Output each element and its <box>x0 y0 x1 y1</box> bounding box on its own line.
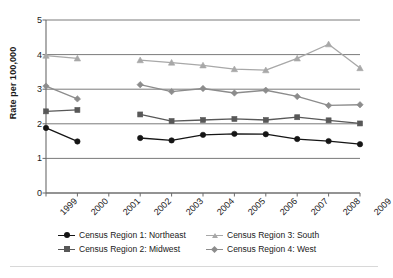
legend-marker-diamond-icon <box>206 245 223 254</box>
data-point-circle <box>326 138 331 143</box>
data-point-diamond <box>263 87 269 93</box>
x-tick-label: 2004 <box>215 196 236 217</box>
data-point-triangle <box>325 41 331 47</box>
data-point-triangle <box>294 55 300 61</box>
data-point-circle <box>169 138 174 143</box>
legend-entry-west[interactable]: Census Region 4: West <box>206 245 358 254</box>
series-northeast <box>43 125 362 147</box>
data-point-circle <box>75 139 80 144</box>
data-point-circle <box>232 131 237 136</box>
series-line <box>46 128 77 141</box>
legend-entry-south[interactable]: Census Region 3: South <box>206 231 358 240</box>
data-point-circle <box>138 135 143 140</box>
x-tick-label: 2002 <box>152 196 173 217</box>
series-line <box>46 56 77 59</box>
series-line <box>46 86 77 99</box>
data-point-diamond <box>43 83 49 89</box>
x-tick-label: 2007 <box>309 196 330 217</box>
series-south <box>43 41 363 73</box>
data-point-circle <box>200 132 205 137</box>
data-point-square <box>263 117 268 122</box>
axis-lines <box>43 20 361 193</box>
series-line <box>140 85 360 106</box>
series-line <box>46 110 77 111</box>
data-point-diamond <box>294 93 300 99</box>
footer-divider <box>10 266 378 267</box>
data-point-diamond <box>357 102 363 108</box>
legend-label: Census Region 1: Northeast <box>79 231 186 240</box>
x-tick-label: 2003 <box>183 196 204 217</box>
data-point-diamond <box>137 82 143 88</box>
x-tick-label: 2000 <box>89 196 110 217</box>
data-point-circle <box>357 142 362 147</box>
data-point-square <box>169 119 174 124</box>
data-point-circle <box>263 131 268 136</box>
data-point-diamond <box>231 90 237 96</box>
data-point-square <box>326 118 331 123</box>
data-point-circle <box>295 136 300 141</box>
data-point-square <box>138 112 143 117</box>
legend-entry-midwest[interactable]: Census Region 2: Midwest <box>58 245 206 254</box>
legend-entry-northeast[interactable]: Census Region 1: Northeast <box>58 231 206 240</box>
x-axis-tick-labels: 1999200020012002200320042005200620072008… <box>46 196 360 230</box>
legend-label: Census Region 3: South <box>227 231 319 240</box>
legend-marker-square-icon <box>58 245 75 254</box>
data-point-circle <box>43 125 48 130</box>
data-point-square <box>201 117 206 122</box>
legend-label: Census Region 2: Midwest <box>79 245 180 254</box>
data-point-diamond <box>74 96 80 102</box>
x-tick-label: 2001 <box>121 196 142 217</box>
x-tick-label: 1999 <box>58 196 79 217</box>
series-line <box>140 44 360 70</box>
x-tick-label: 2005 <box>246 196 267 217</box>
data-point-square <box>295 115 300 120</box>
x-tick-label: 2008 <box>340 196 361 217</box>
legend-marker-circle-icon <box>58 231 75 240</box>
legend-label: Census Region 4: West <box>227 245 316 254</box>
legend-marker-triangle-icon <box>206 231 223 240</box>
chart-legend: Census Region 1: NortheastCensus Region … <box>58 228 358 256</box>
data-point-diamond <box>200 85 206 91</box>
series-midwest <box>44 107 363 125</box>
gridlines <box>46 20 360 193</box>
data-point-square <box>232 116 237 121</box>
data-point-square <box>75 107 80 112</box>
series-west <box>43 82 363 109</box>
data-point-square <box>44 109 49 114</box>
x-tick-label: 2006 <box>278 196 299 217</box>
data-point-square <box>358 121 363 126</box>
data-series-layer <box>43 41 363 147</box>
data-point-diamond <box>325 102 331 108</box>
